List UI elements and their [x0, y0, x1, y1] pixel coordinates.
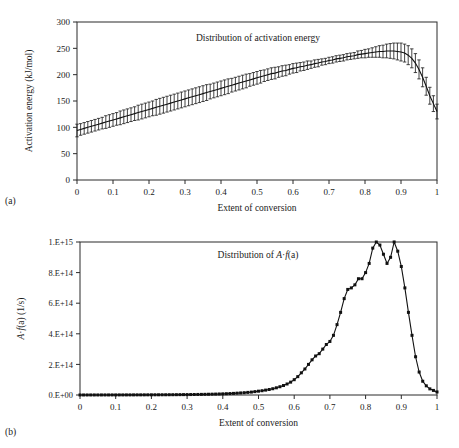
data-point: [218, 392, 221, 395]
data-point: [246, 391, 249, 394]
a-f-alpha-distribution-plot: 0.E+002.E+144.E+146.E+148.E+141.E+1500.1…: [0, 224, 459, 448]
x-tick-label: 1: [435, 402, 440, 412]
data-point: [339, 311, 342, 314]
data-point: [336, 323, 339, 326]
y-tick-label: 100: [57, 123, 71, 133]
data-point: [214, 393, 217, 396]
data-point: [193, 393, 196, 396]
error-bars: [75, 43, 438, 137]
data-point: [164, 393, 167, 396]
data-point: [386, 262, 389, 265]
data-point: [296, 375, 299, 378]
data-point: [364, 271, 367, 274]
data-point: [143, 393, 146, 396]
data-point: [86, 393, 89, 396]
data-point: [418, 371, 421, 374]
data-point: [111, 393, 114, 396]
data-point: [228, 392, 231, 395]
data-point: [153, 393, 156, 396]
data-point: [207, 393, 210, 396]
y-tick-label: 150: [57, 96, 71, 106]
data-point: [118, 393, 121, 396]
x-axis-title: Extent of conversion: [217, 203, 296, 213]
plot-title: Distribution of A·f(a): [218, 250, 299, 261]
data-point: [103, 393, 106, 396]
y-tick-label: 300: [57, 17, 71, 27]
data-point: [89, 393, 92, 396]
data-point: [403, 286, 406, 289]
data-point: [203, 393, 206, 396]
data-point: [396, 250, 399, 253]
data-point: [350, 286, 353, 289]
x-tick-label: 0.6: [287, 187, 299, 197]
data-point: [200, 393, 203, 396]
data-point: [146, 393, 149, 396]
data-point: [407, 311, 410, 314]
data-point: [278, 385, 281, 388]
x-tick-label: 0.3: [181, 402, 193, 412]
data-point: [421, 380, 424, 383]
panel-b-caption: (b): [5, 427, 16, 437]
data-point: [286, 382, 289, 385]
data-point: [314, 354, 317, 357]
y-tick-label: 0.E+00: [49, 391, 74, 400]
data-point: [128, 393, 131, 396]
data-point: [268, 388, 271, 391]
data-point: [275, 386, 278, 389]
x-tick-label: 1: [435, 187, 440, 197]
data-point: [100, 393, 103, 396]
data-point: [171, 393, 174, 396]
data-point: [414, 355, 417, 358]
data-point: [357, 277, 360, 280]
data-point: [393, 241, 396, 244]
x-axis-title: Extent of conversion: [219, 418, 298, 428]
data-point: [353, 283, 356, 286]
data-point: [136, 393, 139, 396]
data-point: [96, 393, 99, 396]
x-tick-label: 0: [78, 402, 83, 412]
data-point: [271, 387, 274, 390]
data-point: [378, 244, 381, 247]
data-point: [411, 334, 414, 337]
data-point: [428, 387, 431, 390]
data-point: [436, 390, 439, 393]
data-point: [79, 393, 82, 396]
y-tick-label: 2.E+14: [49, 361, 74, 370]
data-point: [114, 393, 117, 396]
data-point: [168, 393, 171, 396]
data-point: [282, 384, 285, 387]
data-point: [150, 393, 153, 396]
x-tick-label: 0.8: [360, 402, 372, 412]
data-point: [189, 393, 192, 396]
x-tick-label: 0.1: [110, 402, 121, 412]
data-series: [79, 241, 439, 397]
data-point: [211, 393, 214, 396]
data-point: [232, 392, 235, 395]
data-point: [318, 352, 321, 355]
plot-title: Distribution of activation energy: [196, 33, 320, 43]
plot-frame: [80, 242, 437, 395]
data-point: [382, 253, 385, 256]
data-point: [196, 393, 199, 396]
data-point: [368, 262, 371, 265]
data-point: [328, 340, 331, 343]
y-tick-label: 200: [57, 70, 71, 80]
data-point: [346, 288, 349, 291]
data-point: [300, 371, 303, 374]
data-point: [107, 393, 110, 396]
y-tick-label: 4.E+14: [49, 330, 74, 339]
data-point: [186, 393, 189, 396]
x-tick-label: 0.7: [324, 402, 336, 412]
data-point: [321, 348, 324, 351]
data-point: [121, 393, 124, 396]
data-point: [432, 389, 435, 392]
x-tick-label: 0.8: [359, 187, 371, 197]
data-point: [139, 393, 142, 396]
figure-container: 05010015020025030000.10.20.30.40.50.60.7…: [0, 0, 459, 448]
data-point: [182, 393, 185, 396]
data-markers: [79, 241, 439, 397]
data-point: [307, 363, 310, 366]
data-point: [132, 393, 135, 396]
panel-a: 05010015020025030000.10.20.30.40.50.60.7…: [0, 0, 459, 224]
x-tick-label: 0: [75, 187, 80, 197]
